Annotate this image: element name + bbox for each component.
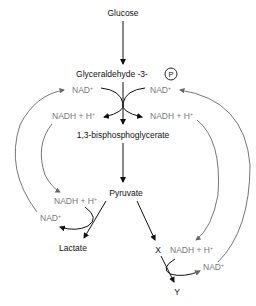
pyruvate-label: Pyruvate bbox=[109, 188, 143, 198]
x-label: X bbox=[155, 245, 161, 255]
right-nad-reduction-arc bbox=[123, 88, 145, 117]
g3p-label: Glyceraldehyde -3- bbox=[76, 69, 148, 79]
nadh-right-top-label: NADH + H+ bbox=[150, 111, 193, 121]
left-inner-nadh-transfer-arrow bbox=[41, 124, 60, 192]
nad-right-bottom-label: NAD+ bbox=[203, 262, 224, 272]
lactate-nad-regeneration-arc bbox=[60, 207, 93, 229]
nadh-right-bottom-label: NADH + H+ bbox=[170, 245, 213, 255]
x-nad-regeneration-arc bbox=[166, 259, 200, 275]
glycolysis-diagram: Glucose Glyceraldehyde -3- P NAD+ NAD+ N… bbox=[0, 0, 256, 306]
x-to-y-arrow bbox=[161, 256, 174, 282]
lactate-label: Lactate bbox=[59, 243, 87, 253]
pyruvate-to-lactate-arrow bbox=[84, 201, 106, 238]
nad-left-top-label: NAD+ bbox=[72, 85, 93, 95]
right-inner-nadh-transfer-arrow bbox=[196, 120, 219, 240]
left-outer-nad-return-arrow bbox=[15, 90, 64, 212]
nadh-left-bottom-label: NADH + H+ bbox=[54, 196, 97, 206]
nad-right-top-label: NAD+ bbox=[150, 85, 171, 95]
left-nad-reduction-arc bbox=[101, 88, 123, 117]
nadh-left-top-label: NADH + H+ bbox=[52, 111, 95, 121]
bpg-label: 1,3-bisphosphoglycerate bbox=[77, 130, 170, 140]
nad-left-bottom-label: NAD+ bbox=[40, 213, 61, 223]
pyruvate-to-x-arrow bbox=[137, 201, 155, 240]
glucose-label: Glucose bbox=[107, 8, 138, 18]
y-label: Y bbox=[174, 287, 180, 297]
phosphate-label: P bbox=[168, 70, 173, 79]
